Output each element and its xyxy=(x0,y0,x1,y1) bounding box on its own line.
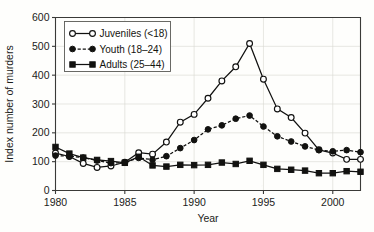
x-axis-title: Year xyxy=(197,212,219,224)
y-tick-label-0: 0 xyxy=(44,184,50,196)
datapoint xyxy=(80,161,86,167)
y-tick-label-200: 200 xyxy=(32,126,50,138)
y-axis-title: Index number of murders xyxy=(3,45,15,162)
datapoint xyxy=(288,139,294,145)
murder-index-line-chart: 010020030040050060019801985199019952000Y… xyxy=(0,0,374,232)
y-tick-label-100: 100 xyxy=(32,155,50,167)
datapoint xyxy=(302,168,307,173)
y-tick-label-400: 400 xyxy=(32,69,50,81)
datapoint xyxy=(122,160,127,165)
datapoint xyxy=(81,155,86,160)
datapoint xyxy=(191,111,197,117)
datapoint xyxy=(177,119,183,125)
datapoint xyxy=(177,145,183,151)
datapoint xyxy=(247,158,252,163)
datapoint xyxy=(233,161,238,166)
datapoint xyxy=(53,144,58,149)
legend-marker xyxy=(70,31,76,37)
datapoint xyxy=(191,162,196,167)
datapoint xyxy=(274,106,280,112)
datapoint xyxy=(219,122,225,128)
datapoint xyxy=(275,166,280,171)
y-tick-label-600: 600 xyxy=(32,11,50,23)
series-line-2 xyxy=(56,147,361,173)
x-tick-label-1980: 1980 xyxy=(44,196,68,208)
datapoint xyxy=(53,153,59,159)
datapoint xyxy=(358,149,364,155)
datapoint xyxy=(108,158,113,163)
legend-label-1: Youth (18–24) xyxy=(100,44,162,55)
datapoint xyxy=(261,76,267,82)
datapoint xyxy=(344,147,350,153)
datapoint xyxy=(288,115,294,121)
datapoint xyxy=(219,78,225,84)
datapoint xyxy=(344,168,349,173)
y-tick-label-300: 300 xyxy=(32,98,50,110)
datapoint xyxy=(67,151,72,156)
datapoint xyxy=(247,113,253,119)
datapoint xyxy=(191,137,197,143)
datapoint xyxy=(205,162,210,167)
datapoint xyxy=(164,164,169,169)
datapoint xyxy=(94,157,99,162)
y-tick-label-500: 500 xyxy=(32,40,50,52)
datapoint xyxy=(205,95,211,101)
legend-marker xyxy=(70,46,76,52)
datapoint xyxy=(94,165,100,171)
datapoint xyxy=(150,157,156,163)
datapoint xyxy=(164,139,170,145)
datapoint xyxy=(233,116,239,122)
legend-marker xyxy=(90,46,96,52)
datapoint xyxy=(316,171,321,176)
x-tick-label-1985: 1985 xyxy=(113,196,137,208)
legend-marker xyxy=(90,31,96,37)
legend-label-0: Juveniles (<18) xyxy=(100,28,168,39)
datapoint xyxy=(261,124,267,130)
datapoint xyxy=(358,156,364,162)
datapoint xyxy=(274,133,280,139)
chart-figure: 010020030040050060019801985199019952000Y… xyxy=(0,0,374,232)
datapoint xyxy=(316,147,322,153)
legend-marker xyxy=(70,62,75,67)
x-tick-label-1995: 1995 xyxy=(252,196,276,208)
datapoint xyxy=(178,162,183,167)
datapoint xyxy=(344,156,350,162)
x-tick-label-1990: 1990 xyxy=(182,196,206,208)
datapoint xyxy=(247,41,253,47)
datapoint xyxy=(261,162,266,167)
datapoint xyxy=(164,153,170,159)
datapoint xyxy=(358,169,363,174)
datapoint xyxy=(150,151,156,157)
datapoint xyxy=(302,144,308,150)
x-tick-label-2000: 2000 xyxy=(321,196,345,208)
datapoint xyxy=(233,64,239,70)
legend-label-2: Adults (25–44) xyxy=(100,59,165,70)
datapoint xyxy=(150,163,155,168)
datapoint xyxy=(330,171,335,176)
datapoint xyxy=(330,148,336,154)
datapoint xyxy=(205,127,211,133)
datapoint xyxy=(302,130,308,136)
datapoint xyxy=(288,167,293,172)
datapoint xyxy=(219,160,224,165)
datapoint xyxy=(136,154,141,159)
legend-marker xyxy=(90,62,95,67)
series-line-1 xyxy=(56,116,361,164)
